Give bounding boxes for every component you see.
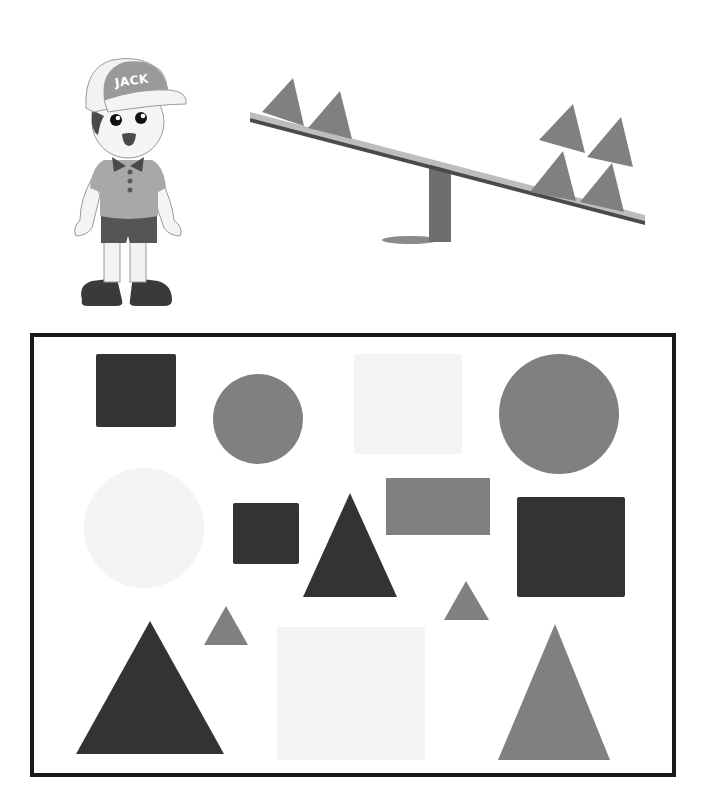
shape-dark-square-large: [517, 497, 625, 597]
shirt-button: [128, 188, 133, 193]
shape-dark-square: [96, 354, 176, 427]
shape-medium-circle-large: [499, 354, 619, 474]
seesaw-right-triangle: [587, 117, 633, 167]
shape-light-square-large: [277, 627, 425, 760]
shape-light-circle: [84, 468, 204, 588]
right-eye-highlight: [141, 114, 146, 119]
shirt-button: [128, 179, 133, 184]
shape-medium-rectangle: [386, 478, 490, 535]
worksheet-scene: JACK: [0, 0, 708, 810]
left-leg: [104, 240, 120, 282]
shirt-button: [128, 170, 133, 175]
seesaw-right-triangle: [539, 104, 585, 153]
shapes-box: [32, 335, 674, 775]
right-eye: [135, 112, 147, 124]
left-eye-highlight: [116, 116, 121, 121]
jack-character: JACK: [75, 58, 187, 306]
shape-medium-circle: [213, 374, 303, 464]
seesaw-post: [429, 165, 451, 242]
left-eye: [110, 114, 122, 126]
shape-light-square: [354, 354, 462, 454]
seesaw: [250, 78, 645, 244]
right-leg: [130, 240, 146, 282]
shape-dark-square-small: [233, 503, 299, 564]
